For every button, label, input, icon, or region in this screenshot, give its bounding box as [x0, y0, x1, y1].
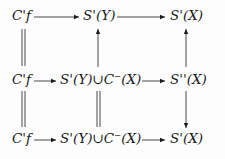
- commutative-diagram: C'f S'(Y) S'(X) C'f S'(Y)∪C⁻(X) S''(X) C…: [0, 0, 225, 159]
- node-r1-c2: S''(X): [170, 73, 207, 87]
- node-r1-c0: C'f: [12, 73, 31, 87]
- node-r0-c2: S'(X): [170, 9, 203, 23]
- node-r0-c1: S'(Y): [83, 9, 115, 23]
- node-r1-c1: S'(Y)∪C⁻(X): [60, 73, 141, 87]
- node-r2-c0: C'f: [12, 132, 31, 146]
- node-r2-c1: S'(Y)∪C⁻(X): [60, 132, 141, 146]
- node-r2-c2: S'(X): [170, 132, 203, 146]
- node-r0-c0: C'f: [12, 9, 31, 23]
